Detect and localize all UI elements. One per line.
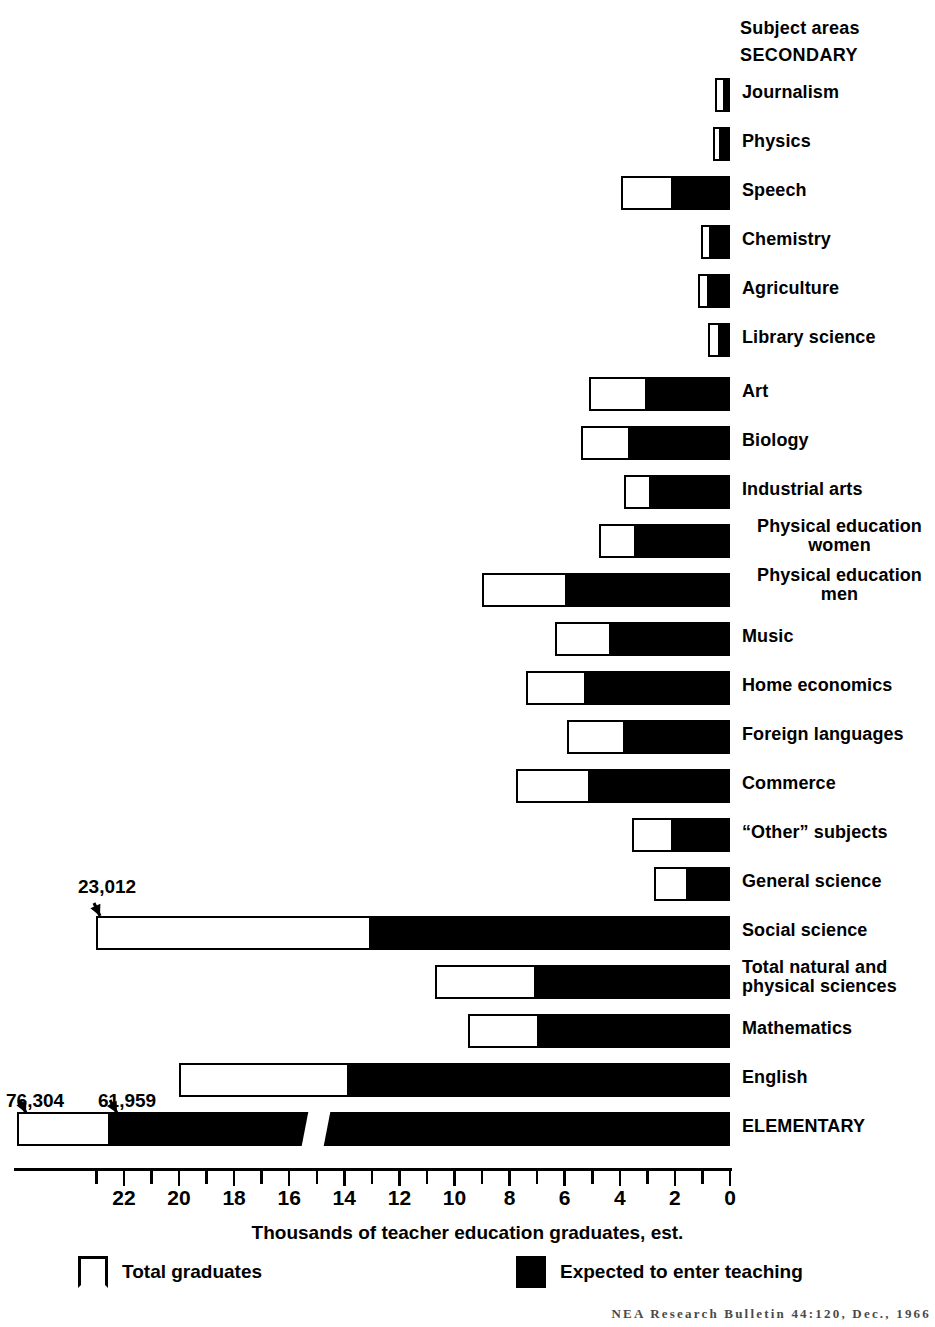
bar-expected-to-enter-teaching xyxy=(671,176,730,210)
x-axis-tick-major xyxy=(123,1171,126,1186)
legend-label-expected-to-enter-teaching: Expected to enter teaching xyxy=(560,1261,803,1283)
bar-expected-to-enter-teaching xyxy=(369,916,730,950)
category-label: Mathematics xyxy=(742,1019,852,1038)
category-label: Art xyxy=(742,382,768,401)
x-axis-tick-major xyxy=(288,1171,291,1186)
x-axis-tick-label: 2 xyxy=(669,1186,681,1210)
x-axis-tick-minor xyxy=(591,1171,594,1184)
category-label: Physical education women xyxy=(742,517,935,556)
x-axis-tick-major xyxy=(233,1171,236,1186)
filled-square-icon xyxy=(516,1256,546,1288)
x-axis-tick-major xyxy=(453,1171,456,1186)
bar-expected-to-enter-teaching xyxy=(671,818,730,852)
x-axis-tick-label: 6 xyxy=(559,1186,571,1210)
x-axis-tick-minor xyxy=(481,1171,484,1184)
x-axis-tick-label: 12 xyxy=(388,1186,411,1210)
category-label: Home economics xyxy=(742,676,892,695)
x-axis-tick-major xyxy=(674,1171,677,1186)
category-label: ELEMENTARY xyxy=(742,1117,865,1136)
bar-expected-to-enter-teaching xyxy=(686,867,730,901)
category-label: Total natural and physical sciences xyxy=(742,958,897,997)
category-label: General science xyxy=(742,872,882,891)
x-axis-tick-minor xyxy=(701,1171,704,1184)
category-label: Agriculture xyxy=(742,279,839,298)
x-axis-tick-minor xyxy=(536,1171,539,1184)
legend-item-expected-to-enter-teaching: Expected to enter teaching xyxy=(516,1256,803,1288)
bar-expected-to-enter-teaching xyxy=(565,573,730,607)
open-square-icon xyxy=(78,1256,108,1288)
x-axis-tick-minor xyxy=(260,1171,263,1184)
callout-23012: 23,012 xyxy=(78,876,136,898)
bar-expected-to-enter-teaching xyxy=(108,1112,730,1146)
x-axis-tick-minor xyxy=(205,1171,208,1184)
x-axis-tick-major xyxy=(729,1171,732,1186)
x-axis-tick-label: 22 xyxy=(112,1186,135,1210)
x-axis-tick-minor xyxy=(371,1171,374,1184)
x-axis-tick-label: 8 xyxy=(504,1186,516,1210)
bar-expected-to-enter-teaching xyxy=(584,671,730,705)
bar-expected-to-enter-teaching xyxy=(623,720,730,754)
category-label: Speech xyxy=(742,181,807,200)
x-axis-tick-minor xyxy=(150,1171,153,1184)
category-label: Physical education men xyxy=(742,566,935,605)
category-label: Music xyxy=(742,627,794,646)
category-label: English xyxy=(742,1068,808,1087)
category-label: Social science xyxy=(742,921,867,940)
x-axis-tick-minor xyxy=(426,1171,429,1184)
bar-expected-to-enter-teaching xyxy=(628,426,730,460)
plot-area: JournalismPhysicsSpeechChemistryAgricult… xyxy=(0,60,935,1165)
x-axis-tick-minor xyxy=(316,1171,319,1184)
x-axis-tick-minor xyxy=(95,1171,98,1184)
category-label: Industrial arts xyxy=(742,480,863,499)
subject-areas-header: Subject areas xyxy=(740,18,860,39)
bar-expected-to-enter-teaching xyxy=(709,225,730,259)
bar-expected-to-enter-teaching xyxy=(649,475,730,509)
bar-expected-to-enter-teaching xyxy=(645,377,730,411)
x-axis-tick-major xyxy=(563,1171,566,1186)
bar-group xyxy=(0,377,935,411)
bar-expected-to-enter-teaching xyxy=(718,323,730,357)
x-axis-tick-label: 20 xyxy=(167,1186,190,1210)
x-axis-tick-major xyxy=(619,1171,622,1186)
category-label: Commerce xyxy=(742,774,836,793)
bar-expected-to-enter-teaching xyxy=(609,622,730,656)
category-label: Chemistry xyxy=(742,230,831,249)
x-axis-tick-major xyxy=(508,1171,511,1186)
x-axis-tick-label: 10 xyxy=(443,1186,466,1210)
bar-expected-to-enter-teaching xyxy=(634,524,730,558)
teacher-education-graduates-chart: Subject areas SECONDARY JournalismPhysic… xyxy=(0,0,935,1327)
source-citation: NEA Research Bulletin 44:120, Dec., 1966 xyxy=(611,1306,931,1322)
category-label: Physics xyxy=(742,132,811,151)
x-axis-tick-label: 16 xyxy=(278,1186,301,1210)
bar-group xyxy=(0,622,935,656)
callout-76304: 76,304 xyxy=(6,1090,64,1112)
bar-expected-to-enter-teaching xyxy=(347,1063,730,1097)
category-label: “Other” subjects xyxy=(742,823,888,842)
legend-label-total-graduates: Total graduates xyxy=(122,1261,262,1283)
bar-expected-to-enter-teaching xyxy=(588,769,730,803)
bar-expected-to-enter-teaching xyxy=(537,1014,730,1048)
category-label: Biology xyxy=(742,431,809,450)
bar-expected-to-enter-teaching xyxy=(723,78,730,112)
callout-61959: 61,959 xyxy=(98,1090,156,1112)
x-axis-tick-major xyxy=(343,1171,346,1186)
x-axis-tick-major xyxy=(398,1171,401,1186)
x-axis-tick-label: 14 xyxy=(333,1186,356,1210)
category-label: Foreign languages xyxy=(742,725,904,744)
legend-item-total-graduates: Total graduates xyxy=(78,1256,262,1288)
x-axis-tick-label: 0 xyxy=(724,1186,736,1210)
bar-expected-to-enter-teaching xyxy=(534,965,730,999)
category-label: Library science xyxy=(742,328,876,347)
x-axis-tick-minor xyxy=(646,1171,649,1184)
x-axis-tick-major xyxy=(178,1171,181,1186)
x-axis-title: Thousands of teacher education graduates… xyxy=(0,1222,935,1244)
bar-expected-to-enter-teaching xyxy=(719,127,730,161)
category-label: Journalism xyxy=(742,83,839,102)
chart-legend: Total graduates Expected to enter teachi… xyxy=(0,1252,935,1296)
x-axis-tick-label: 4 xyxy=(614,1186,626,1210)
bar-expected-to-enter-teaching xyxy=(707,274,730,308)
x-axis-tick-label: 18 xyxy=(222,1186,245,1210)
